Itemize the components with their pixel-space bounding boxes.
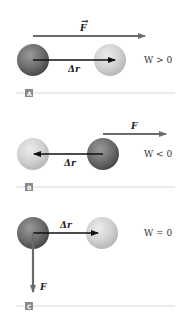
displacement-label: Δr: [59, 220, 73, 230]
panel-b: F Δr W < 0 B: [16, 121, 175, 191]
panel-tag: C: [27, 303, 32, 310]
panel-tag: A: [27, 90, 32, 97]
displacement-label: Δr: [67, 64, 81, 74]
work-label: W = 0: [144, 228, 173, 238]
panel-a: F → Δr W > 0 A: [16, 16, 175, 97]
displacement-label: Δr: [63, 158, 77, 168]
panel-tag: B: [27, 184, 32, 191]
force-label: F: [130, 121, 138, 131]
work-label: W < 0: [144, 149, 173, 159]
work-label: W > 0: [144, 55, 173, 65]
work-sign-diagram: F → Δr W > 0 A F Δr W < 0 B Δr F W = 0 C: [0, 0, 186, 324]
vector-arrow-accent-icon: →: [81, 16, 89, 26]
force-label: F: [39, 282, 47, 292]
panel-c: Δr F W = 0 C: [16, 217, 175, 310]
